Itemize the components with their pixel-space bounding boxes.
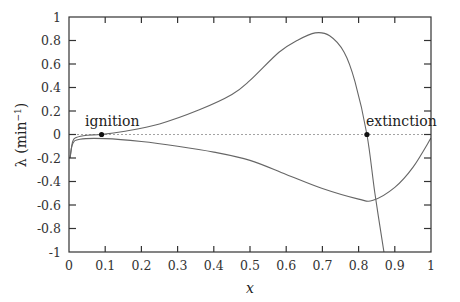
y-tick-label: -0.2 (37, 151, 61, 166)
x-tick-label: 0.1 (95, 258, 115, 273)
x-tick-label: 0.4 (204, 258, 224, 273)
y-axis-exponent: −1 (13, 108, 23, 121)
y-tick-label: 0.4 (41, 80, 61, 95)
plot-curves (70, 33, 431, 252)
x-tick-label: 0.8 (349, 258, 369, 273)
y-tick-label: 0.2 (41, 104, 61, 119)
y-tick-label: -0.6 (37, 198, 61, 213)
x-tick-label: 0.3 (168, 258, 188, 273)
y-tick-label: -0.4 (37, 174, 61, 189)
y-tick-label: 1 (53, 10, 61, 25)
x-tick-label: 0.2 (131, 258, 151, 273)
series-line-0 (70, 33, 384, 252)
y-axis-unit-close: ) (13, 103, 29, 108)
y-axis-unit: (min (13, 122, 29, 159)
x-tick-label: 0 (65, 258, 73, 273)
y-axis-title: λ (min−1) (13, 103, 29, 167)
y-tick-label: 0.6 (41, 57, 61, 72)
series-line-1 (70, 138, 431, 201)
extinction-label: extinction (366, 113, 437, 129)
x-axis-title: x (246, 280, 254, 296)
x-tick-label: 0.7 (312, 258, 332, 273)
x-tick-label: 0.9 (385, 258, 405, 273)
y-tick-label: 0 (53, 127, 61, 142)
x-tick-label: 0.5 (240, 258, 260, 273)
y-tick-label: -1 (49, 245, 61, 260)
x-tick-label: 1 (427, 258, 435, 273)
x-axis-ticks: 00.10.20.30.40.50.60.70.80.91 (65, 17, 435, 273)
y-tick-label: 0.8 (41, 33, 61, 48)
y-axis-lambda: λ (13, 158, 29, 167)
ignition-label: ignition (85, 113, 139, 129)
x-tick-label: 0.6 (276, 258, 296, 273)
y-tick-label: -0.8 (37, 221, 61, 236)
ignition-point (99, 132, 104, 137)
chart: 00.10.20.30.40.50.60.70.80.91 10.80.60.4… (0, 0, 460, 302)
extinction-point (364, 132, 369, 137)
